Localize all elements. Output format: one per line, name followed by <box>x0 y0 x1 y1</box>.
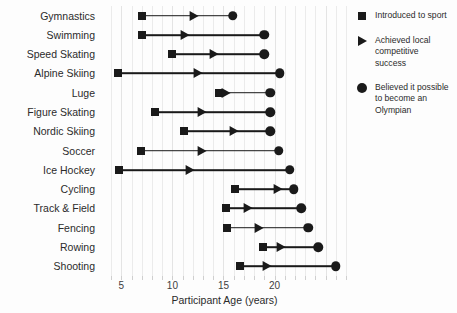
olympian-belief-marker <box>275 69 285 79</box>
chart-row: Fencing <box>103 218 346 237</box>
connector-line <box>235 188 294 190</box>
olympian-belief-marker <box>274 146 284 156</box>
local-success-marker <box>198 146 207 156</box>
introduced-marker <box>151 108 159 116</box>
local-success-marker <box>185 165 194 175</box>
row-label-rowing: Rowing <box>60 242 95 253</box>
x-tick <box>305 276 306 280</box>
row-label-track-field: Track & Field <box>34 203 95 214</box>
legend-label: Believed it possible to become an Olympi… <box>375 82 451 116</box>
x-tick <box>203 276 204 280</box>
introduced-marker <box>137 147 145 155</box>
olympian-belief-marker <box>303 223 313 233</box>
olympian-belief-marker <box>266 88 276 98</box>
olympian-belief-marker <box>285 165 295 175</box>
gridline <box>346 6 347 276</box>
x-tick <box>244 276 245 280</box>
introduced-marker <box>259 243 267 251</box>
local-success-marker <box>244 203 253 213</box>
x-tick <box>162 276 163 280</box>
row-label-speed-skating: Speed Skating <box>27 49 95 60</box>
x-axis-title: Participant Age (years) <box>103 294 346 306</box>
olympian-belief-marker <box>331 262 341 272</box>
row-label-swimming: Swimming <box>47 30 95 41</box>
olympian-belief-marker <box>266 107 276 117</box>
chart-row: Luge <box>103 83 346 102</box>
connector-line <box>142 34 265 36</box>
x-tick <box>336 276 337 280</box>
chart-row: Shooting <box>103 257 346 276</box>
olympian-belief-marker <box>296 204 306 214</box>
olympian-belief-marker <box>260 30 270 40</box>
chart-row: Swimming <box>103 25 346 44</box>
x-tick <box>234 276 235 280</box>
legend-entry: Achieved local competitive success <box>357 35 455 69</box>
x-tick <box>295 276 296 280</box>
local-success-marker <box>189 11 198 21</box>
olympian-belief-marker <box>228 11 238 21</box>
row-label-nordic-skiing: Nordic Skiing <box>33 126 95 137</box>
x-tick <box>152 276 153 280</box>
x-tick-label: 10 <box>167 280 178 291</box>
introduced-marker <box>180 127 188 135</box>
chart-row: Track & Field <box>103 199 346 218</box>
x-tick <box>213 276 214 280</box>
legend-label: Introduced to sport <box>375 10 447 21</box>
row-label-luge: Luge <box>72 88 95 99</box>
connector-line <box>240 266 336 268</box>
local-success-marker <box>255 223 264 233</box>
connector-line <box>226 208 302 210</box>
introduced-marker <box>114 69 122 77</box>
row-label-shooting: Shooting <box>54 261 95 272</box>
olympian-belief-marker <box>260 49 270 59</box>
x-tick <box>254 276 255 280</box>
local-success-marker <box>229 126 238 136</box>
triangle-icon <box>357 35 375 47</box>
legend-entry: Believed it possible to become an Olympi… <box>357 82 455 116</box>
introduced-marker <box>222 204 230 212</box>
chart-row: Nordic Skiing <box>103 122 346 141</box>
chart-row: Alpine Skiing <box>103 64 346 83</box>
plot-area: GymnasticsSwimmingSpeed SkatingAlpine Sk… <box>103 6 346 276</box>
circle-icon <box>357 82 375 94</box>
x-tick-label: 15 <box>218 280 229 291</box>
local-success-marker <box>276 242 285 252</box>
square-icon <box>357 10 375 22</box>
chart-row: Cycling <box>103 180 346 199</box>
row-label-soccer: Soccer <box>62 145 95 156</box>
x-tick <box>326 276 327 280</box>
x-tick-label: 20 <box>269 280 280 291</box>
olympian-belief-marker <box>289 184 299 194</box>
local-success-marker <box>210 49 219 59</box>
connector-line <box>184 131 271 133</box>
chart-row: Soccer <box>103 141 346 160</box>
connector-line <box>119 169 290 171</box>
x-tick <box>183 276 184 280</box>
x-tick <box>111 276 112 280</box>
chart-row: Ice Hockey <box>103 160 346 179</box>
introduced-marker <box>231 185 239 193</box>
local-success-marker <box>180 30 189 40</box>
dumbbell-chart: GymnasticsSwimmingSpeed SkatingAlpine Sk… <box>0 0 457 313</box>
introduced-marker <box>236 262 244 270</box>
local-success-marker <box>221 88 230 98</box>
legend-entry: Introduced to sport <box>357 10 455 22</box>
introduced-marker <box>138 31 146 39</box>
row-label-ice-hockey: Ice Hockey <box>43 165 95 176</box>
row-label-fencing: Fencing <box>58 223 95 234</box>
introduced-marker <box>168 50 176 58</box>
connector-line <box>263 246 318 248</box>
x-tick <box>285 276 286 280</box>
local-success-marker <box>273 184 282 194</box>
olympian-belief-marker <box>314 242 324 252</box>
x-tick-label: 5 <box>119 280 125 291</box>
chart-legend: Introduced to sportAchieved local compet… <box>357 10 455 129</box>
introduced-marker <box>115 166 123 174</box>
introduced-marker <box>138 12 146 20</box>
connector-line <box>141 150 279 152</box>
introduced-marker <box>223 224 231 232</box>
x-tick <box>142 276 143 280</box>
x-tick <box>193 276 194 280</box>
chart-row: Gymnastics <box>103 6 346 25</box>
x-axis: 5101520 <box>103 276 346 290</box>
